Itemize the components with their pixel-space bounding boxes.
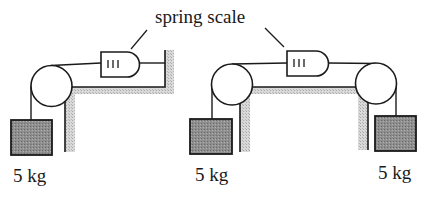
leader-line-right bbox=[265, 28, 284, 47]
left-mass-block bbox=[190, 119, 232, 154]
support-hatch-horizontal bbox=[65, 87, 173, 94]
support-structure bbox=[240, 87, 368, 152]
left-pulley-icon bbox=[212, 64, 253, 105]
support-hatch-top bbox=[240, 87, 368, 94]
spring-scale-label: spring scale bbox=[155, 6, 245, 27]
physics-diagram: spring scale 5 kg bbox=[0, 0, 434, 199]
mass-label: 5 kg bbox=[13, 165, 47, 186]
right-pulley-icon bbox=[356, 63, 397, 104]
right-mass-label: 5 kg bbox=[378, 162, 412, 183]
left-setup: 5 kg bbox=[11, 50, 174, 186]
wall-hatch bbox=[165, 50, 174, 94]
rope-scale-to-right bbox=[328, 63, 376, 64]
leader-line-left bbox=[131, 30, 147, 49]
right-setup: 5 kg 5 kg bbox=[190, 51, 416, 185]
left-mass-label: 5 kg bbox=[195, 164, 229, 185]
spring-scale-icon bbox=[101, 52, 140, 77]
right-mass-block bbox=[375, 116, 416, 151]
spring-scale-icon bbox=[287, 51, 329, 76]
mass-block bbox=[11, 120, 52, 155]
rope-to-scale bbox=[51, 63, 101, 66]
pulley-icon bbox=[31, 66, 72, 107]
rope-left-to-scale bbox=[232, 63, 287, 64]
